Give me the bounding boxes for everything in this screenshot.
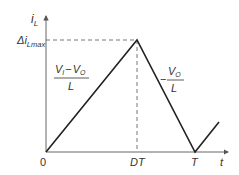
- x-axis-label: t: [220, 156, 224, 168]
- tick-label-dt: DT: [130, 156, 146, 168]
- svg-text:VO: VO: [168, 65, 181, 78]
- peak-label: ΔiLmax: [16, 34, 45, 49]
- tick-label-t: T: [191, 156, 199, 168]
- y-axis-label: iL: [31, 12, 38, 28]
- svg-text:VI−VO: VI−VO: [55, 63, 86, 76]
- current-waveform: [46, 40, 219, 152]
- origin-label: 0: [40, 156, 46, 168]
- inductor-current-diagram: iL ΔiLmax VI−VO L − VO L 0 DT T t: [0, 0, 239, 175]
- fall-sign: −: [160, 73, 166, 85]
- rise-denominator: L: [68, 80, 74, 92]
- rise-slope-label: VI−VO L: [54, 63, 89, 92]
- fall-denominator: L: [171, 82, 177, 94]
